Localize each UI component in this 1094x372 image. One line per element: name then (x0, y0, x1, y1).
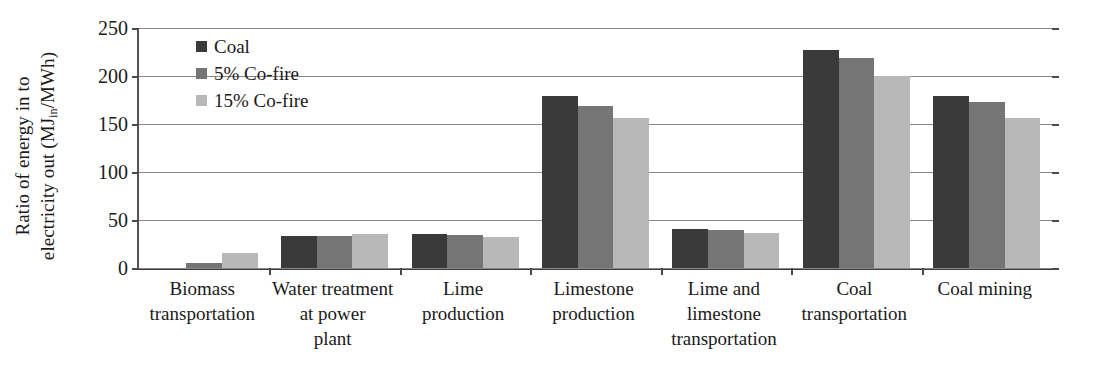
bar (186, 263, 222, 268)
legend-item: Coal (196, 36, 308, 57)
category-label-line: Coal mining (875, 276, 1094, 301)
y-axis-title-line-2: electricity out (MJin/MWh) (35, 52, 63, 260)
category-label-line: transportation (614, 326, 834, 351)
y-tick-label: 200 (98, 66, 128, 86)
bar (281, 236, 317, 268)
y-tick-label: 50 (108, 210, 128, 230)
x-tick-mark (400, 268, 402, 275)
bar (447, 235, 483, 268)
bar (708, 230, 744, 268)
y-tick-mark-right (1052, 124, 1059, 126)
x-tick-mark (269, 268, 271, 275)
y-tick-mark (132, 124, 139, 126)
bar (578, 106, 614, 268)
bar (352, 234, 388, 268)
legend-swatch-icon (196, 95, 207, 106)
x-tick-mark (791, 268, 793, 275)
bar-group (672, 28, 779, 268)
legend-swatch-icon (196, 41, 207, 52)
bar (744, 233, 780, 268)
y-tick-mark-right (1052, 76, 1059, 78)
bar (412, 234, 448, 268)
bar (542, 96, 578, 268)
bar (839, 58, 875, 268)
bar-group (933, 28, 1040, 268)
y-tick-mark-right (1052, 28, 1059, 30)
legend-item: 15% Co-fire (196, 90, 308, 111)
y-tick-mark (132, 76, 139, 78)
gridline (139, 268, 1052, 269)
y-axis-title-line-2-pre: electricity out (MJ (37, 118, 58, 260)
y-tick-mark-right (1052, 220, 1059, 222)
legend: Coal5% Co-fire15% Co-fire (196, 36, 308, 111)
y-axis-title-line-1: Ratio of energy in to (10, 77, 35, 236)
bar-group (803, 28, 910, 268)
bar-group (412, 28, 519, 268)
category-label-line: plant (223, 326, 443, 351)
bar (1005, 118, 1041, 268)
bar (969, 102, 1005, 268)
y-tick-mark-right (1052, 172, 1059, 174)
category-label-line: transportation (744, 301, 964, 326)
y-tick-label: 0 (118, 258, 128, 278)
y-tick-mark (132, 172, 139, 174)
y-axis-title-line-2-post: /MWh) (37, 52, 58, 108)
bar (803, 50, 839, 268)
y-tick-mark (132, 28, 139, 30)
y-tick-mark-right (1052, 268, 1059, 270)
legend-label: Coal (214, 36, 250, 57)
bar (222, 253, 258, 268)
y-tick-label: 150 (98, 114, 128, 134)
legend-swatch-icon (196, 68, 207, 79)
x-tick-mark (530, 268, 532, 275)
bar (317, 236, 353, 268)
bar (613, 118, 649, 268)
x-tick-mark (922, 268, 924, 275)
legend-label: 15% Co-fire (214, 90, 308, 111)
legend-item: 5% Co-fire (196, 63, 308, 84)
y-tick-label: 250 (98, 18, 128, 38)
bar (672, 229, 708, 268)
legend-label: 5% Co-fire (214, 63, 299, 84)
y-axis-title: Ratio of energy in to electricity out (M… (0, 21, 72, 291)
bar-chart: Ratio of energy in to electricity out (M… (0, 0, 1094, 372)
y-tick-mark (132, 268, 139, 270)
x-tick-mark (661, 268, 663, 275)
category-axis-labels: BiomasstransportationWater treatmentat p… (137, 276, 1050, 368)
y-tick-label: 100 (98, 162, 128, 182)
bar-group (542, 28, 649, 268)
y-tick-mark (132, 220, 139, 222)
y-axis-title-subscript: in (46, 108, 60, 118)
bar (933, 96, 969, 268)
bar (874, 76, 910, 268)
category-label: Coal mining (875, 276, 1094, 301)
bar (483, 237, 519, 268)
